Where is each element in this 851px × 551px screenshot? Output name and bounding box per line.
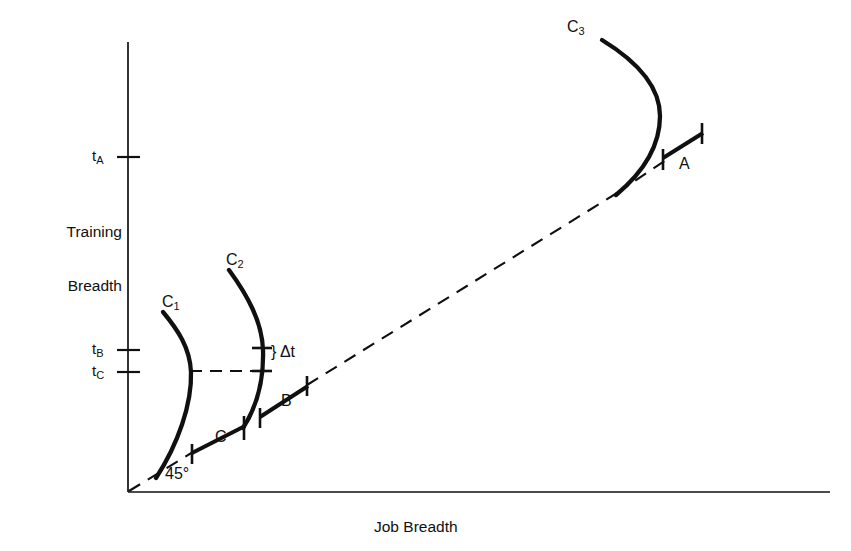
y-axis-title-line2: Breadth	[18, 277, 122, 295]
curve-label-C1: C1	[162, 293, 180, 313]
tick-label-tA-subscript: A	[96, 154, 103, 166]
curve-label-C2-subscript: 2	[238, 258, 244, 270]
tick-label-tC: tC	[92, 362, 104, 382]
curve-label-C1-base: C	[162, 293, 174, 310]
curve-label-C1-subscript: 1	[174, 300, 180, 312]
delta-t-label: } Δt	[271, 343, 295, 362]
segment-label-A: A	[679, 155, 690, 174]
diagram-svg	[0, 0, 851, 551]
segment-label-B: B	[281, 392, 292, 411]
angle-label-45deg: 45°	[165, 465, 189, 484]
reference-line-45deg	[129, 160, 666, 491]
tick-label-tA: tA	[92, 147, 104, 167]
tick-label-tB: tB	[92, 340, 104, 360]
curve-label-C2-base: C	[226, 251, 238, 268]
y-axis-title: Training Breadth	[18, 186, 122, 332]
tick-label-tB-subscript: B	[96, 347, 103, 359]
curve-label-C3-subscript: 3	[579, 25, 585, 37]
curve-label-C3-base: C	[567, 18, 579, 35]
x-axis-title: Job Breadth	[374, 518, 458, 536]
y-axis-title-line1: Training	[18, 223, 122, 241]
reference-line-seg-mid	[307, 193, 617, 385]
curve-label-C3: C3	[567, 18, 585, 38]
curve-C3	[602, 40, 660, 195]
figure-canvas: Training Breadth Job Breadth tA tB tC C1…	[0, 0, 851, 551]
tick-label-tC-subscript: C	[96, 369, 104, 381]
curve-label-C2: C2	[226, 251, 244, 271]
curve-C1	[156, 312, 191, 478]
segment-label-C: C	[215, 428, 227, 447]
